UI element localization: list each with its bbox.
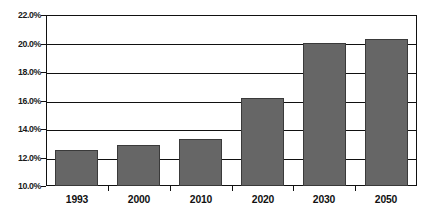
chart-title-remnant bbox=[0, 0, 426, 7]
x-axis-tick-label: 2030 bbox=[295, 193, 353, 205]
bar-chart: 22.0%20.0%18.0%16.0%14.0%12.0%10.0% 1993… bbox=[0, 0, 426, 221]
x-axis-tick-label: 2050 bbox=[357, 193, 415, 205]
y-axis-tick-label: 10.0% bbox=[3, 180, 41, 191]
x-axis-tick bbox=[170, 186, 171, 191]
y-axis-tick-label: 12.0% bbox=[3, 152, 41, 163]
bar-1993 bbox=[55, 150, 98, 186]
y-axis-tick bbox=[41, 186, 46, 187]
bar-2010 bbox=[179, 139, 222, 186]
y-axis-tick-label: 18.0% bbox=[3, 66, 41, 77]
x-axis: 199320002010202020302050 bbox=[46, 193, 417, 213]
x-axis-tick-label: 2000 bbox=[110, 193, 168, 205]
y-axis-tick-label: 14.0% bbox=[3, 123, 41, 134]
bars-layer bbox=[46, 15, 417, 186]
bar-2000 bbox=[117, 145, 160, 186]
x-axis-tick-label: 2020 bbox=[234, 193, 292, 205]
bar-2020 bbox=[241, 98, 284, 186]
x-axis-tick bbox=[232, 186, 233, 191]
y-axis-tick-label: 16.0% bbox=[3, 95, 41, 106]
x-axis-tick-label: 2010 bbox=[172, 193, 230, 205]
x-axis-tick bbox=[108, 186, 109, 191]
bar-2050 bbox=[365, 39, 408, 186]
x-axis-tick-label: 1993 bbox=[48, 193, 106, 205]
x-axis-tick bbox=[293, 186, 294, 191]
y-axis-tick-label: 20.0% bbox=[3, 38, 41, 49]
y-axis-tick-label: 22.0% bbox=[3, 9, 41, 20]
y-axis: 22.0%20.0%18.0%16.0%14.0%12.0%10.0% bbox=[0, 0, 44, 221]
x-axis-tick bbox=[355, 186, 356, 191]
bar-2030 bbox=[303, 43, 346, 186]
